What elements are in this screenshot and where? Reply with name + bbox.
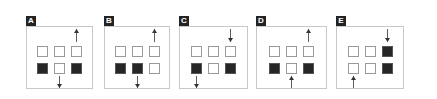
arrow-down-icon [385,29,390,42]
panel-e: E [0,0,437,99]
arrows [0,0,437,99]
arrow-up-icon [351,76,356,88]
